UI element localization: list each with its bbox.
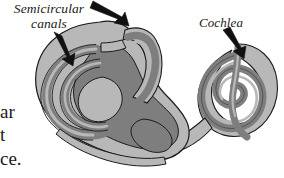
vestibular-apparatus-group bbox=[36, 21, 190, 166]
body-text-fragment-line3: ce. bbox=[0, 148, 22, 170]
label-semicircular-canals-line2: canals bbox=[3, 16, 95, 31]
label-cochlea: Cochlea bbox=[199, 15, 243, 31]
body-text-fragment-line1: ar bbox=[0, 101, 15, 123]
body-text-fragment-line2: t bbox=[0, 124, 5, 146]
label-semicircular-canals: Semicircular canals bbox=[3, 1, 95, 31]
label-semicircular-canals-line1: Semicircular bbox=[14, 1, 84, 16]
figure-inner-ear: Semicircular canals Cochlea ar t ce. bbox=[0, 0, 284, 178]
